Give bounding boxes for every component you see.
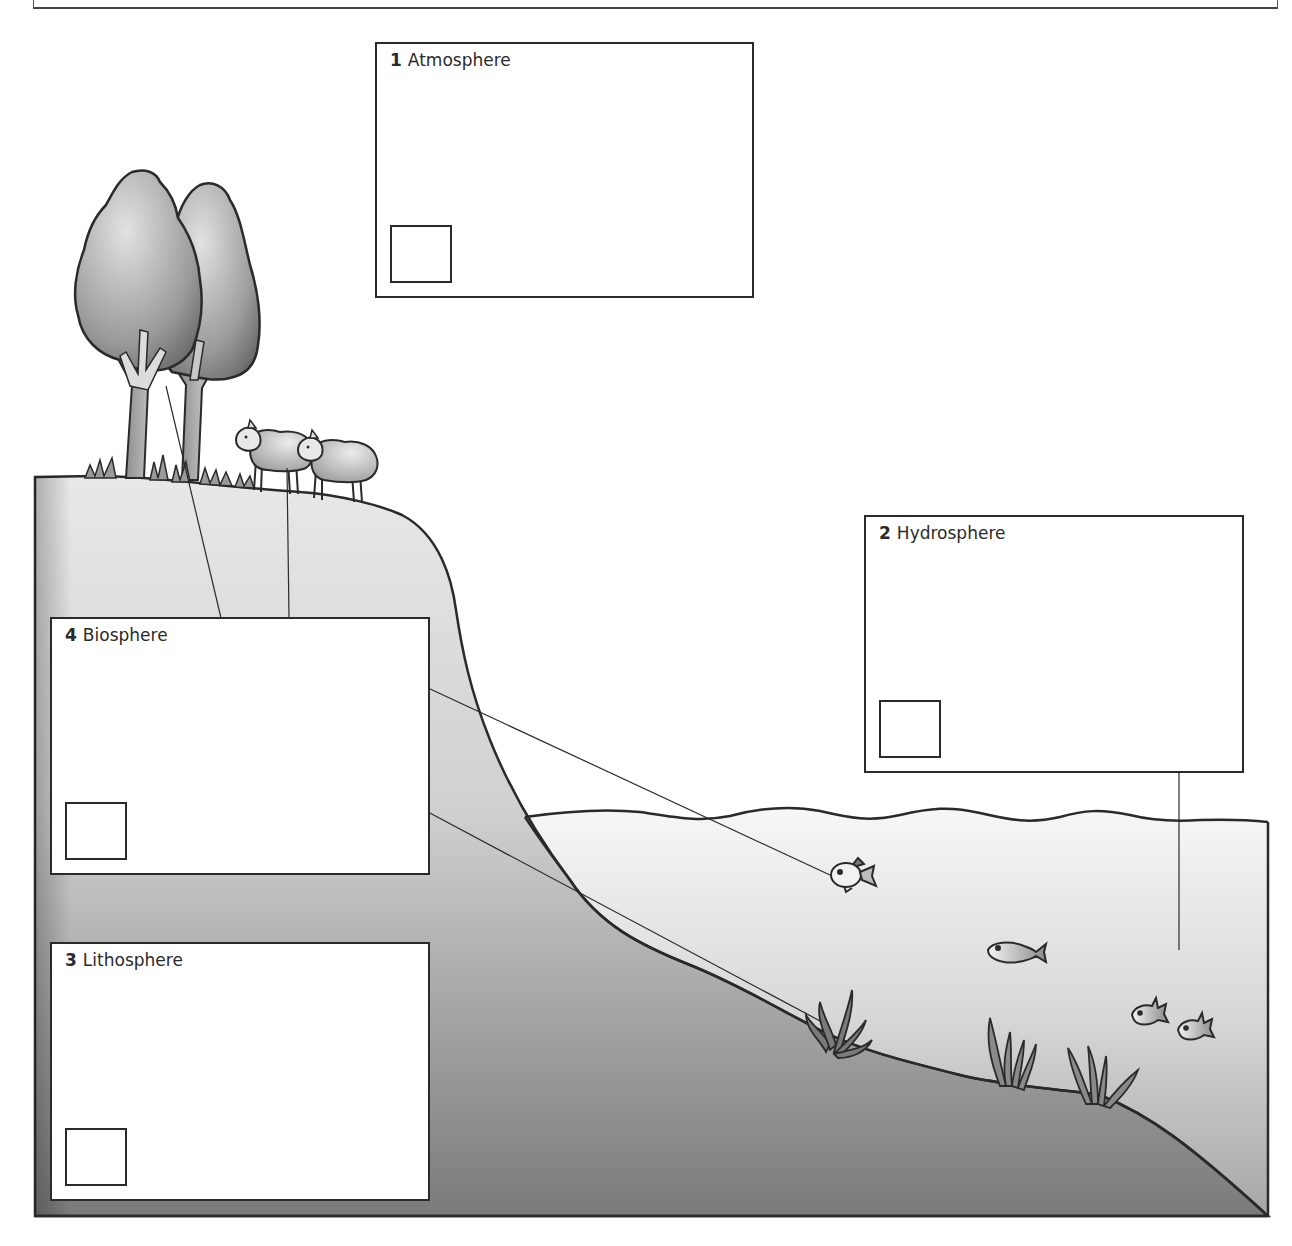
hydrosphere-answer-box[interactable] <box>879 700 941 758</box>
biosphere-answer-box[interactable] <box>65 802 127 860</box>
biosphere-title: 4Biosphere <box>65 625 168 645</box>
hydrosphere-number: 2 <box>879 523 891 543</box>
biosphere-box: 4Biosphere <box>50 617 430 875</box>
lithosphere-box: 3Lithosphere <box>50 942 430 1201</box>
atmosphere-number: 1 <box>390 50 402 70</box>
hydrosphere-label: Hydrosphere <box>897 523 1006 543</box>
sheep-right <box>298 430 378 502</box>
lithosphere-label: Lithosphere <box>83 950 183 970</box>
atmosphere-box: 1Atmosphere <box>375 42 754 298</box>
lithosphere-number: 3 <box>65 950 77 970</box>
lithosphere-answer-box[interactable] <box>65 1128 127 1186</box>
hydrosphere-box: 2Hydrosphere <box>864 515 1244 773</box>
atmosphere-title: 1Atmosphere <box>390 50 511 70</box>
biosphere-number: 4 <box>65 625 77 645</box>
lithosphere-title: 3Lithosphere <box>65 950 183 970</box>
hydrosphere-title: 2Hydrosphere <box>879 523 1005 543</box>
atmosphere-label: Atmosphere <box>408 50 511 70</box>
atmosphere-answer-box[interactable] <box>390 225 452 283</box>
biosphere-label: Biosphere <box>83 625 168 645</box>
